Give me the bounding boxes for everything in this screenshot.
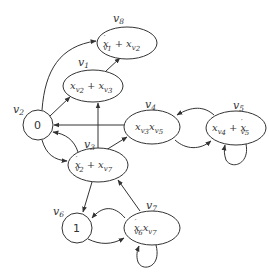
edge-v4-v5 bbox=[175, 140, 211, 148]
directed-graph-diagram: v8 x′v1+xv2 v1 xv2+xv3 v2 0 v4 xv3xv5 v5… bbox=[0, 0, 269, 278]
node-v4: v4 xv3xv5 bbox=[124, 98, 180, 144]
node-v8: v8 x′v1+xv2 bbox=[97, 12, 157, 59]
node-v4-label: v4 bbox=[145, 98, 156, 112]
node-v8-label: v8 bbox=[113, 12, 124, 26]
edge-v7-v3 bbox=[118, 180, 140, 211]
edge-v7-v6 bbox=[92, 209, 125, 218]
node-v6-label: v6 bbox=[53, 205, 64, 219]
node-v6-content: 1 bbox=[73, 222, 80, 235]
edge-v2-v3 bbox=[42, 140, 67, 161]
edge-v3-v4 bbox=[106, 137, 127, 150]
node-v6: v6 1 bbox=[53, 205, 92, 243]
node-v2: v2 0 bbox=[13, 103, 53, 140]
node-v5: v5 xv4+x′v5 bbox=[206, 99, 266, 145]
edge-v1-v8 bbox=[106, 58, 120, 71]
node-v2-content: 0 bbox=[34, 119, 41, 132]
edge-v3-v2 bbox=[53, 132, 78, 152]
edge-v2-v1 bbox=[50, 97, 70, 116]
node-v7-label: v7 bbox=[146, 199, 157, 213]
edge-v3-v6 bbox=[83, 182, 92, 212]
edge-v6-v7 bbox=[88, 238, 124, 243]
edge-v7-self-loop bbox=[137, 245, 157, 267]
node-v2-label: v2 bbox=[13, 103, 24, 117]
node-v3-label: v3 bbox=[84, 138, 95, 152]
node-v1-label: v1 bbox=[78, 56, 89, 70]
edge-v5-self-loop bbox=[224, 144, 246, 165]
node-v7: v7 x′v6xv7 bbox=[124, 199, 180, 245]
node-v5-label: v5 bbox=[233, 99, 244, 113]
edge-v5-v4 bbox=[177, 108, 214, 115]
